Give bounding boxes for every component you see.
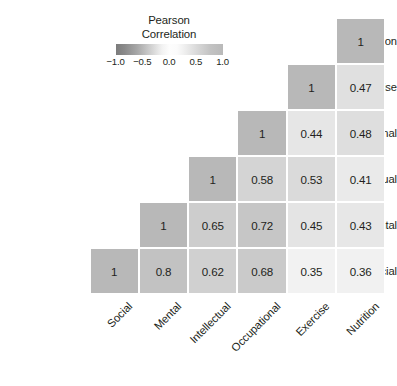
heatmap-cell: 0.35 [287, 248, 336, 294]
heatmap-cell: 0.44 [287, 110, 336, 156]
heatmap-cell: 0.48 [336, 110, 385, 156]
heatmap-cell: 0.45 [287, 202, 336, 248]
heatmap-cell: 1 [90, 248, 139, 294]
legend-tick-labels: −1.0−0.50.00.51.0 [108, 56, 230, 70]
legend-tick: 0.5 [189, 56, 202, 68]
x-axis-label: Mental [152, 300, 184, 332]
heatmap-cell: 0.72 [237, 202, 286, 248]
legend-tick: −0.5 [133, 56, 151, 68]
legend-colorbar [116, 44, 223, 55]
heatmap-cell: 1 [237, 110, 286, 156]
heatmap-cell: 1 [287, 64, 336, 110]
x-axis-label: Occupational [229, 300, 283, 354]
heatmap-cell: 0.53 [287, 156, 336, 202]
legend-tick: −1.0 [106, 56, 124, 68]
legend-title-line1: Pearson [108, 14, 230, 28]
heatmap-cell: 0.36 [336, 248, 385, 294]
heatmap-cell: 0.68 [237, 248, 286, 294]
legend-tick: 1.0 [216, 56, 229, 68]
heatmap-cell: 0.58 [237, 156, 286, 202]
heatmap-cell: 1 [139, 202, 188, 248]
heatmap-cell: 0.41 [336, 156, 385, 202]
x-axis-label: Exercise [294, 300, 332, 338]
legend: Pearson Correlation −1.0−0.50.00.51.0 [108, 14, 230, 70]
correlation-heatmap-figure: Pearson Correlation −1.0−0.50.00.51.0 Nu… [0, 0, 397, 386]
x-axis-label: Social [105, 300, 135, 330]
legend-tick: 0.0 [163, 56, 176, 68]
heatmap-cell: 1 [188, 156, 237, 202]
heatmap-cell: 0.65 [188, 202, 237, 248]
heatmap-cell: 0.62 [188, 248, 237, 294]
x-axis-label: Nutrition [344, 300, 381, 337]
heatmap-cell: 0.8 [139, 248, 188, 294]
heatmap-cell: 0.47 [336, 64, 385, 110]
heatmap-cell: 0.43 [336, 202, 385, 248]
legend-title-line2: Correlation [108, 28, 230, 42]
x-axis-label: Intellectual [188, 300, 233, 345]
heatmap-cell: 1 [336, 18, 385, 64]
